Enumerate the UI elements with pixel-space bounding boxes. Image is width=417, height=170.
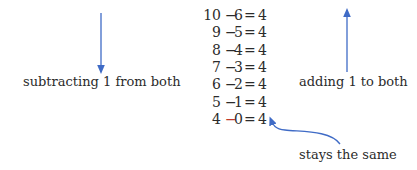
equation-row: 10−6=4 (196, 7, 266, 24)
bottom-label: stays the same (299, 147, 397, 162)
minuend: 4 (212, 111, 221, 128)
left-label: subtracting 1 from both (23, 74, 181, 89)
minuend: 8 (212, 42, 221, 59)
subtrahend: 3 (234, 59, 243, 76)
minuend: 5 (212, 94, 221, 111)
curved-arrow-icon (271, 120, 340, 144)
result: 4 (258, 24, 267, 41)
subtrahend: 2 (234, 76, 243, 93)
equals-sign: = (244, 24, 256, 41)
equation-row: 8−4=4 (196, 42, 266, 59)
equals-sign: = (244, 7, 256, 24)
result: 4 (258, 7, 267, 24)
equation-row: 7−3=4 (196, 59, 266, 76)
minuend: 9 (212, 24, 221, 41)
minuend: 10 (203, 7, 221, 24)
equals-sign: = (244, 94, 256, 111)
result: 4 (258, 111, 267, 128)
equals-sign: = (244, 76, 256, 93)
equation-row: 4−0=4 (196, 111, 266, 128)
equals-sign: = (244, 42, 256, 59)
result: 4 (258, 94, 267, 111)
result: 4 (258, 59, 267, 76)
subtrahend: 6 (234, 7, 243, 24)
subtrahend: 1 (234, 94, 243, 111)
minuend: 6 (212, 76, 221, 93)
subtrahend: 0 (234, 111, 243, 128)
equals-sign: = (244, 111, 256, 128)
equation-row: 5−1=4 (196, 94, 266, 111)
equation-row: 9−5=4 (196, 24, 266, 41)
right-label: adding 1 to both (299, 74, 408, 89)
result: 4 (258, 76, 267, 93)
equals-sign: = (244, 59, 256, 76)
subtrahend: 4 (234, 42, 243, 59)
subtrahend: 5 (234, 24, 243, 41)
minuend: 7 (212, 59, 221, 76)
result: 4 (258, 42, 267, 59)
equation-row: 6−2=4 (196, 76, 266, 93)
